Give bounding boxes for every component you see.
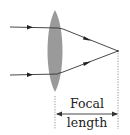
arrow-icon [83,36,91,41]
lower-ray [10,51,118,77]
lens-diagram: Focal length [0,0,130,135]
convex-lens [48,10,63,92]
focal-point [117,50,119,52]
upper-ray [10,25,118,51]
arrow-icon [83,61,91,66]
focal-label: Focal [70,96,104,111]
length-label: length [67,115,108,130]
arrow-icon [27,73,33,77]
arrow-icon [27,25,33,29]
